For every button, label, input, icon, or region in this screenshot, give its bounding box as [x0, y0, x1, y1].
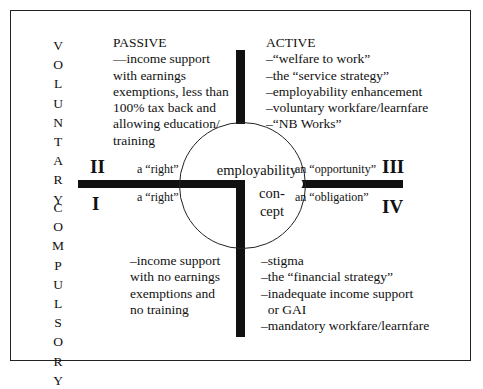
- quadrant-iii-line: –employability enhancement: [266, 84, 428, 100]
- center-label-line2: con-: [246, 184, 298, 202]
- axis-label-voluntary: VOLUNTARY: [51, 36, 65, 209]
- axis-letter: R: [51, 352, 65, 371]
- quadrant-ii-line: with earnings: [113, 68, 229, 84]
- axis-letter: O: [51, 217, 65, 236]
- center-label-line3: cept: [246, 202, 298, 220]
- axis-letter: T: [51, 132, 65, 151]
- axis-letter: P: [51, 256, 65, 275]
- quadrant-numeral-i: I: [92, 194, 99, 214]
- axis-letter: L: [51, 294, 65, 313]
- quadrant-iv-line: or GAI: [261, 302, 429, 318]
- vertical-axis-bar-top: [236, 50, 245, 124]
- quadrant-i-line: –income support: [130, 253, 220, 269]
- quadrant-iii-heading: ACTIVE: [266, 35, 428, 51]
- quadrant-ii-heading: PASSIVE: [113, 35, 229, 51]
- quadrant-iii-line: –“welfare to work”: [266, 51, 428, 67]
- axis-letter: N: [51, 113, 65, 132]
- edge-label-i: a “right”: [137, 190, 179, 204]
- quadrant-numeral-ii: II: [90, 157, 105, 177]
- quadrant-i-text: –income support with no earnings exempti…: [130, 253, 220, 318]
- quadrant-ii-line: 100% tax back and: [113, 100, 229, 116]
- axis-letter: U: [51, 275, 65, 294]
- quadrant-iii-line: –the “service strategy”: [266, 68, 428, 84]
- axis-letter: C: [51, 198, 65, 217]
- quadrant-iv-line: –inadequate income support: [261, 286, 429, 302]
- edge-label-ii: a “right”: [137, 162, 179, 176]
- quadrant-iii-text: ACTIVE –“welfare to work” –the “service …: [266, 35, 428, 133]
- quadrant-i-line: no training: [130, 302, 220, 318]
- quadrant-iv-line: –stigma: [261, 253, 429, 269]
- axis-letter: M: [51, 236, 65, 255]
- edge-label-iii: an “opportunity”: [295, 162, 376, 176]
- quadrant-iii-line: –voluntary workfare/learnfare: [266, 100, 428, 116]
- axis-letter: Y: [51, 371, 65, 389]
- axis-letter: L: [51, 74, 65, 93]
- axis-letter: R: [51, 170, 65, 189]
- quadrant-i-line: exemptions and: [130, 286, 220, 302]
- axis-letter: O: [51, 332, 65, 351]
- quadrant-iii-line: –“NB Works”: [266, 116, 428, 132]
- axis-letter: S: [51, 313, 65, 332]
- quadrant-iv-text: –stigma –the “financial strategy” –inade…: [261, 253, 429, 334]
- quadrant-iv-line: –mandatory workfare/learnfare: [261, 318, 429, 334]
- axis-letter: A: [51, 151, 65, 170]
- axis-letter: O: [51, 55, 65, 74]
- quadrant-ii-line: exemptions, less than: [113, 84, 229, 100]
- axis-letter: V: [51, 36, 65, 55]
- quadrant-iv-line: –the “financial strategy”: [261, 269, 429, 285]
- axis-letter: U: [51, 94, 65, 113]
- quadrant-ii-line: —income support: [113, 51, 229, 67]
- quadrant-numeral-iv: IV: [382, 197, 403, 217]
- quadrant-numeral-iii: III: [382, 157, 404, 177]
- axis-label-compulsory: COMPULSORY: [51, 198, 65, 389]
- horizontal-axis-bar-right: [293, 180, 403, 188]
- quadrant-i-line: with no earnings: [130, 269, 220, 285]
- edge-label-iv: an “obligation”: [295, 190, 369, 204]
